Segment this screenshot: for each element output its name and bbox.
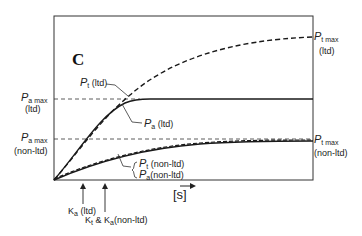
pa-max-ltd-qualifier: (ltd) [25,104,41,114]
pt-ltd-leader [106,84,128,96]
x-unit-label: [s] [173,190,187,200]
time-arrowhead [190,183,196,189]
pt-max-ltd-qualifier: (ltd) [319,46,335,56]
pa-ltd-leader [122,104,142,123]
kt-ka-nonltd-arrowhead [102,183,108,189]
pa-max-nonltd-label: Pa max [21,132,47,144]
pt-ltd-label: Pt (ltd) [80,77,107,89]
pt-max-nonltd-label: Pt max [314,134,338,146]
pt-max-nonltd-qualifier: (non-ltd) [314,148,348,158]
pa-max-ltd-label: Pa max [21,92,47,104]
nonltd-brace [132,162,137,178]
pa-max-nonltd-qualifier: (non-ltd) [14,146,48,156]
kt-ka-nonltd-label: Kt & Ka(non-ltd) [85,215,147,226]
pa-nonltd-label: Pa(non-ltd) [139,169,184,181]
plot-frame [54,16,313,180]
pt-max-ltd-label: Pt max [314,31,338,43]
panel-label: C [72,50,84,70]
pa-ltd-label: Pa (ltd) [144,118,173,130]
ka-ltd-arrowhead [80,183,86,189]
